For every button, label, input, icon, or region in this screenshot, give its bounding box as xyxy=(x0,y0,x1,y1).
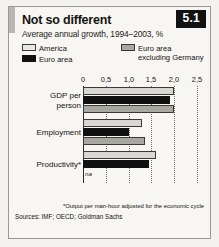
bar-employment-america xyxy=(83,119,142,127)
bar-gdp-america xyxy=(83,87,174,95)
category-label-gdp-line2: person xyxy=(57,101,81,111)
chart-subtitle: Average annual growth, 1994–2003, % xyxy=(22,29,163,39)
gridline-2-5 xyxy=(197,86,199,183)
legend-label-euro-ex-germany-line1: Euro area xyxy=(138,44,171,53)
x-axis-tick-labels: 0 0,5 1,0 1,5 2,0 2,5 xyxy=(9,75,210,86)
x-tick-0: 0 xyxy=(81,75,85,84)
chart-number-badge: 5.1 xyxy=(176,10,206,28)
bar-productivity-america xyxy=(83,151,156,159)
legend-swatch-euro-ex-germany xyxy=(121,44,135,51)
bar-employment-euro-area xyxy=(83,128,129,136)
chart-plot-area: 0 0,5 1,0 1,5 2,0 2,5 GDP per person Emp… xyxy=(9,75,210,197)
x-tick-2-5: 2,5 xyxy=(192,75,202,84)
productivity-euro-ex-germany-na-label: na xyxy=(85,170,92,177)
category-label-employment: Employment xyxy=(37,128,81,138)
x-tick-0-5: 0,5 xyxy=(101,75,111,84)
bar-gdp-euro-area xyxy=(83,96,170,104)
category-label-gdp-line1: GDP per xyxy=(50,91,81,101)
bar-employment-euro-ex-germany xyxy=(83,137,145,145)
chart-sources: Sources: IMF; OECD; Goldman Sachs xyxy=(15,213,122,220)
chart-title: Not so different xyxy=(22,13,111,27)
x-tick-1-0: 1,0 xyxy=(124,75,134,84)
gridline-2-0 xyxy=(174,86,176,183)
bar-productivity-euro-area xyxy=(83,160,149,168)
chart-footnote: *Output per man-hour adjusted for the ec… xyxy=(63,203,204,209)
legend-swatch-euro-area xyxy=(22,55,36,62)
legend-label-america: America xyxy=(39,44,67,53)
chart-gridlines: GDP per person Employment Productivity* … xyxy=(9,86,210,183)
chart-legend: America Euro area Euro area excluding Ge… xyxy=(22,44,210,70)
legend-swatch-america xyxy=(22,44,36,51)
x-tick-2-0: 2,0 xyxy=(169,75,179,84)
legend-label-euro-area: Euro area xyxy=(39,55,72,64)
x-tick-1-5: 1,5 xyxy=(146,75,156,84)
category-label-productivity: Productivity* xyxy=(37,160,81,170)
legend-label-euro-ex-germany-line2: excluding Germany xyxy=(138,53,203,62)
accent-bar xyxy=(9,7,15,33)
chart-card: 5.1 Not so different Average annual grow… xyxy=(8,6,211,239)
bar-gdp-euro-ex-germany xyxy=(83,105,174,113)
